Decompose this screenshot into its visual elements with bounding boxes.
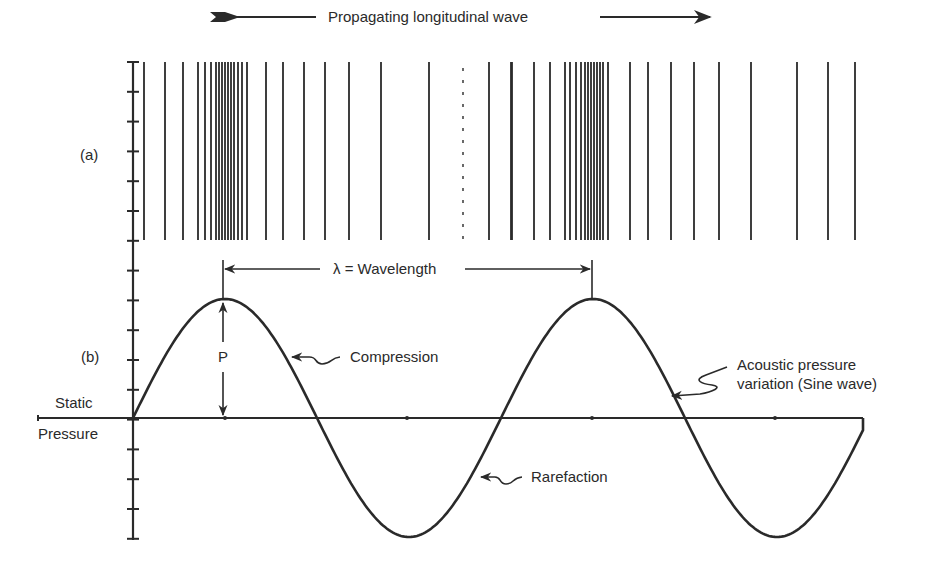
wavelength-bracket: λ = Wavelength	[223, 260, 592, 300]
static-label: Static	[55, 394, 93, 411]
wavelength-label: λ = Wavelength	[333, 260, 436, 277]
rarefaction-label: Rarefaction	[531, 468, 608, 485]
propagation-arrow: Propagating longitudinal wave	[210, 8, 710, 25]
pressure-label: Pressure	[38, 425, 98, 442]
compression-annotation: Compression	[292, 348, 438, 365]
amplitude-indicator: P	[218, 303, 228, 415]
baseline-marker	[223, 416, 227, 420]
vertical-axis	[127, 62, 139, 540]
static-pressure-baseline	[38, 415, 863, 421]
compression-label: Compression	[350, 348, 438, 365]
sine-label-line2: variation (Sine wave)	[737, 375, 877, 392]
panel-b-label: (b)	[81, 348, 99, 365]
baseline-marker	[590, 416, 594, 420]
propagation-label: Propagating longitudinal wave	[328, 8, 528, 25]
particle-lines	[144, 62, 855, 240]
baseline-marker	[773, 416, 777, 420]
sine-label-line1: Acoustic pressure	[737, 356, 856, 373]
longitudinal-wave-diagram: Propagating longitudinal wave (a) (b) St…	[0, 0, 934, 572]
rarefaction-annotation: Rarefaction	[481, 468, 608, 485]
panel-a-label: (a)	[80, 146, 98, 163]
amplitude-label: P	[218, 348, 228, 365]
baseline-marker	[405, 416, 409, 420]
sine-wave-annotation: Acoustic pressure variation (Sine wave)	[672, 356, 877, 396]
